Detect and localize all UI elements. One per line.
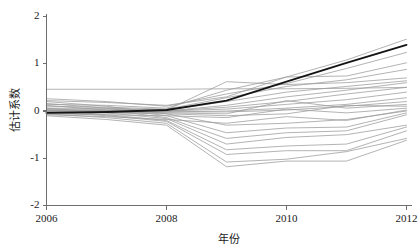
x-tick-label: 2006 (36, 212, 59, 224)
x-tick-label: 2012 (396, 212, 418, 224)
y-tick-label: -2 (30, 198, 39, 210)
y-axis-title: 估计系数 (9, 88, 22, 132)
x-axis-title: 年份 (218, 232, 240, 246)
chart-background (0, 0, 419, 251)
chart-container: 210-1-2 2006200820102012 估计系数 年份 (0, 0, 419, 251)
y-tick-label: 0 (34, 104, 40, 116)
x-tick-label: 2010 (276, 212, 299, 224)
y-tick-label: -1 (30, 151, 39, 163)
estimated-coefficient-line-chart: 210-1-2 2006200820102012 估计系数 年份 (0, 0, 419, 251)
y-tick-label: 1 (34, 56, 40, 68)
y-tick-label: 2 (34, 9, 40, 21)
x-tick-label: 2008 (156, 212, 179, 224)
